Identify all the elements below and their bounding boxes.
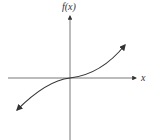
function-curve [17, 45, 125, 110]
x-axis-label: x [141, 72, 145, 83]
function-graph [0, 0, 158, 140]
y-axis-label: f(x) [62, 1, 76, 12]
